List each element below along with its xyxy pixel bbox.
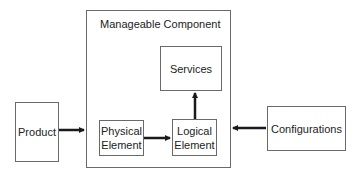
arrows-layer [0,0,361,174]
